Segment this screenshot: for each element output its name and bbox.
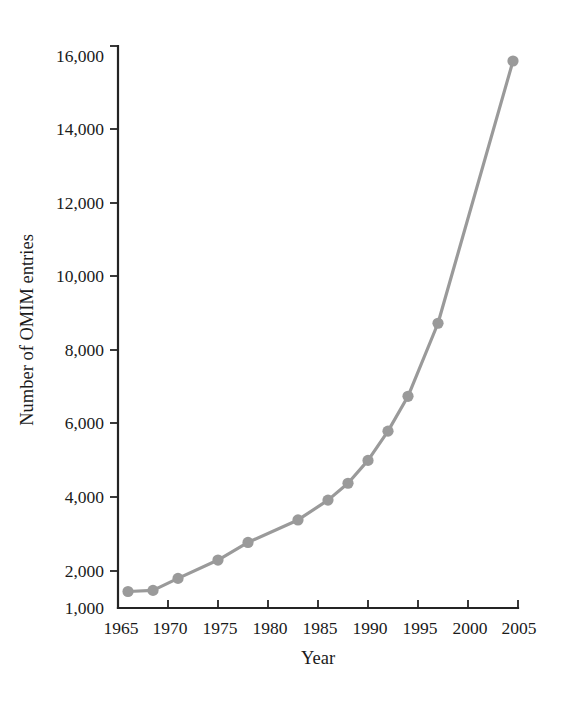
x-axis-title: Year xyxy=(301,648,335,668)
x-tick-label-1970: 1970 xyxy=(153,618,188,638)
y-tick-label-12000: 12,000 xyxy=(56,193,104,213)
data-point xyxy=(242,537,253,548)
y-tick-label-6000: 6,000 xyxy=(65,413,105,433)
data-point xyxy=(147,585,158,596)
data-point xyxy=(322,495,333,506)
omim-entries-chart-figure: 16,000 14,000 12,000 10,000 8,000 6,000 … xyxy=(0,0,566,703)
data-point xyxy=(212,554,223,565)
y-tick-label-14000: 14,000 xyxy=(56,119,104,139)
x-axis-tick-labels: 1965 1970 1975 1980 1985 1990 1995 2000 … xyxy=(104,618,537,638)
data-point xyxy=(507,55,518,66)
y-tick-label-16000: 16,000 xyxy=(56,46,104,66)
x-tick-label-1985: 1985 xyxy=(303,618,338,638)
data-point xyxy=(362,455,373,466)
data-point xyxy=(402,391,413,402)
y-tick-label-2000: 2,000 xyxy=(65,561,105,581)
x-tick-label-1995: 1995 xyxy=(403,618,438,638)
x-tick-label-2005: 2005 xyxy=(502,618,537,638)
series-line-omim-entries xyxy=(128,61,513,592)
x-tick-label-1975: 1975 xyxy=(203,618,238,638)
chart-plot-area: 16,000 14,000 12,000 10,000 8,000 6,000 … xyxy=(0,0,566,703)
x-tick-label-1990: 1990 xyxy=(353,618,388,638)
data-point xyxy=(382,426,393,437)
data-point xyxy=(432,318,443,329)
y-axis-tick-labels: 16,000 14,000 12,000 10,000 8,000 6,000 … xyxy=(56,46,104,618)
data-series-omim-entries xyxy=(122,55,518,597)
x-tick-label-1965: 1965 xyxy=(104,618,139,638)
series-markers-omim-entries xyxy=(122,55,518,597)
data-point xyxy=(342,478,353,489)
y-tick-label-4000: 4,000 xyxy=(65,487,105,507)
y-tick-label-10000: 10,000 xyxy=(56,266,104,286)
y-axis-title: Number of OMIM entries xyxy=(17,234,37,426)
data-point xyxy=(122,586,133,597)
y-axis-tick-marks xyxy=(110,46,118,571)
x-tick-label-1980: 1980 xyxy=(253,618,288,638)
y-tick-label-1000: 1,000 xyxy=(65,598,105,618)
y-tick-label-8000: 8,000 xyxy=(65,340,105,360)
x-axis-tick-marks xyxy=(168,600,518,608)
data-point xyxy=(172,573,183,584)
data-point xyxy=(292,514,303,525)
x-tick-label-2000: 2000 xyxy=(453,618,488,638)
